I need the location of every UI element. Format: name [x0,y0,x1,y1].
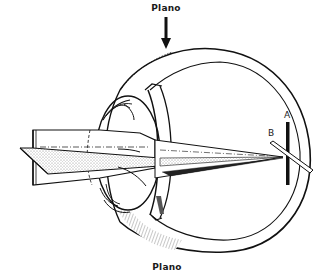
eye-optics-diagram: Plano Plano A B [0,0,332,274]
point-a-label: A [284,111,290,120]
point-b-label: B [268,129,274,138]
arrow-down-icon [161,17,171,49]
bottom-plano-label: Plano [152,263,181,272]
top-plano-label: Plano [151,4,180,13]
diagram-drawing [0,0,332,274]
